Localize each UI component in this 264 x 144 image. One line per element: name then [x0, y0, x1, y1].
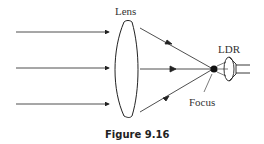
focus-point: [210, 65, 217, 72]
incoming-rays: [16, 32, 109, 104]
lens-shape: [115, 21, 138, 118]
focus-label: Focus: [189, 96, 215, 108]
lens-label: Lens: [115, 5, 136, 17]
figure-caption: Figure 9.16: [105, 129, 169, 140]
optics-diagram: Lens Focus LDR Figure 9.16: [0, 0, 264, 144]
ldr-label: LDR: [218, 43, 241, 55]
